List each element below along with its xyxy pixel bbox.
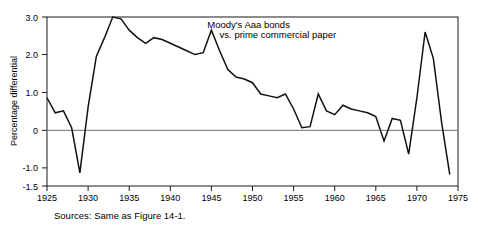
y-tick-label-neg15: -1.5 — [22, 182, 38, 192]
data-series-line — [47, 17, 450, 175]
y-tick-label-neg1: -1.0 — [22, 163, 38, 173]
x-tick-label-1955: 1955 — [284, 193, 304, 203]
x-tick-label-1975: 1975 — [448, 193, 468, 203]
y-axis-title: Percentage differential — [9, 56, 19, 146]
x-tick-label-1935: 1935 — [119, 193, 139, 203]
x-tick-label-1930: 1930 — [78, 193, 98, 203]
x-tick-label-1970: 1970 — [407, 193, 427, 203]
x-tick-label-1940: 1940 — [160, 193, 180, 203]
x-tick-label-1965: 1965 — [366, 193, 386, 203]
x-tick-label-1960: 1960 — [325, 193, 345, 203]
x-tick-label-1950: 1950 — [242, 193, 262, 203]
source-note: Sources: Same as Figure 14-1. — [54, 210, 185, 221]
y-tick-label-1: 1.0 — [25, 88, 38, 98]
y-tick-label-3: 3.0 — [25, 13, 38, 23]
y-axis-ticks — [42, 17, 47, 186]
series-annotation-line-2: vs. prime commercial paper — [220, 29, 337, 40]
plot-frame — [47, 17, 458, 186]
percentage-differential-line-chart: 3.0 2.0 1.0 0 -1.0 -1.5 Percentage diffe… — [0, 0, 478, 234]
x-tick-label-1925: 1925 — [37, 193, 57, 203]
x-axis-ticks — [47, 186, 458, 191]
figure-container: 3.0 2.0 1.0 0 -1.0 -1.5 Percentage diffe… — [0, 0, 478, 234]
y-tick-label-2: 2.0 — [25, 50, 38, 60]
y-tick-label-0: 0 — [33, 126, 38, 136]
x-tick-label-1945: 1945 — [201, 193, 221, 203]
